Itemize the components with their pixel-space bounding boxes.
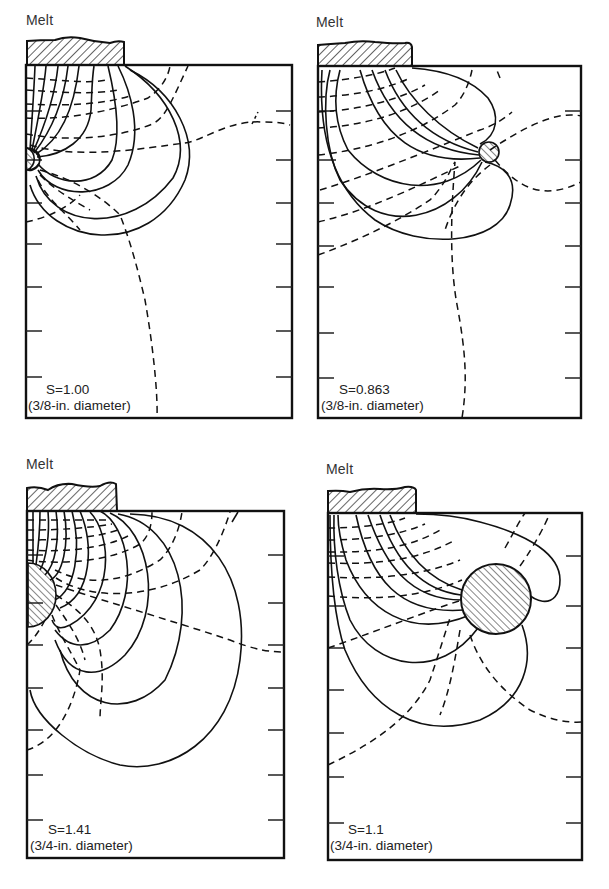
scale-ticks: [27, 555, 284, 820]
scale-ticks: [318, 111, 581, 378]
s-value: S=1.1: [330, 822, 433, 838]
isotherms: [30, 511, 242, 767]
s-value: S=0.863: [321, 382, 424, 398]
mold-frame: [27, 511, 284, 858]
heat-flow-lines: [318, 68, 581, 418]
chill-insert: [27, 148, 40, 170]
diameter-label: (3/4-in. diameter): [30, 838, 133, 853]
melt-riser-block: [27, 482, 117, 511]
chill-heat-flow-figure: Melt Melt Melt Melt S=1.00 (3/8-in. diam…: [0, 0, 609, 889]
melt-label-top-left: Melt: [26, 12, 53, 28]
melt-label-bottom-left: Melt: [26, 456, 53, 472]
figure-canvas: [0, 0, 609, 889]
s-value: S=1.00: [28, 382, 131, 398]
melt-label-bottom-right: Melt: [326, 461, 353, 477]
diameter-label: (3/4-in. diameter): [330, 838, 433, 853]
panel-bottom-left: [27, 482, 284, 858]
caption-bottom-left: S=1.41 (3/4-in. diameter): [30, 822, 133, 854]
melt-label-top-right: Melt: [316, 14, 343, 30]
chill-insert: [28, 563, 56, 627]
diameter-label: (3/8-in. diameter): [28, 398, 131, 413]
diameter-label: (3/8-in. diameter): [321, 398, 424, 413]
chill-hatch: [462, 565, 530, 633]
caption-bottom-right: S=1.1 (3/4-in. diameter): [330, 822, 433, 854]
melt-riser-block: [27, 37, 124, 65]
caption-top-right: S=0.863 (3/8-in. diameter): [321, 382, 424, 414]
caption-top-left: S=1.00 (3/8-in. diameter): [28, 382, 131, 414]
panel-bottom-right: [328, 487, 582, 860]
mold-frame: [318, 66, 581, 418]
melt-riser-block: [328, 487, 416, 513]
s-value: S=1.41: [30, 822, 133, 838]
melt-riser-block: [318, 41, 412, 66]
chill-insert: [479, 142, 499, 162]
panel-top-left: [26, 37, 292, 418]
isotherms: [330, 514, 560, 726]
panel-top-right: [318, 41, 581, 418]
